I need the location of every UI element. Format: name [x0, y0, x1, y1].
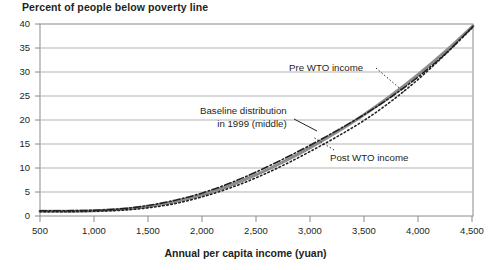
- x-tick-label-4000: 4,000: [388, 225, 448, 236]
- annotation-baseline-line1: Baseline distribution: [200, 104, 287, 117]
- annotation-baseline-distribution: Baseline distribution in 1999 (middle): [200, 104, 287, 130]
- x-tick-label-2500: 2,500: [226, 225, 286, 236]
- y-tick-label-5: 5: [4, 186, 30, 197]
- y-tick-label-40: 40: [4, 18, 30, 29]
- y-tick-label-15: 15: [4, 138, 30, 149]
- annotation-pre-wto-income: Pre WTO income: [289, 61, 363, 74]
- x-axis-ticks: [40, 216, 472, 222]
- x-tick-label-4500: 4,500: [442, 225, 491, 236]
- y-axis-ticks: [35, 24, 40, 216]
- y-tick-label-0: 0: [4, 210, 30, 221]
- x-axis-title: Annual per capita income (yuan): [0, 247, 491, 259]
- x-tick-label-1000: 1,000: [64, 225, 124, 236]
- y-tick-label-10: 10: [4, 162, 30, 173]
- x-tick-label-3500: 3,500: [334, 225, 394, 236]
- x-tick-label-3000: 3,000: [280, 225, 340, 236]
- x-tick-label-1500: 1,500: [118, 225, 178, 236]
- x-tick-label-500: 500: [10, 225, 70, 236]
- x-tick-label-2000: 2,000: [172, 225, 232, 236]
- y-tick-label-25: 25: [4, 90, 30, 101]
- y-tick-label-35: 35: [4, 42, 30, 53]
- y-tick-label-20: 20: [4, 114, 30, 125]
- annotation-baseline-line2: in 1999 (middle): [200, 117, 287, 130]
- y-tick-label-30: 30: [4, 66, 30, 77]
- chart-figure: Percent of people below poverty line: [0, 0, 491, 270]
- annotation-post-wto-income: Post WTO income: [330, 151, 408, 164]
